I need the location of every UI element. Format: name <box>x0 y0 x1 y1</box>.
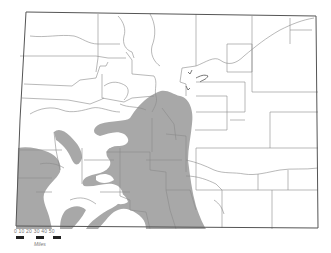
reservoir-markers <box>186 70 208 90</box>
scale-segment <box>16 236 24 239</box>
scale-segment <box>36 236 44 239</box>
scale-units-label: Miles <box>34 241 46 247</box>
scale-bar: 0 10 20 30 40 50 Miles <box>14 228 74 250</box>
scale-segment <box>53 236 61 239</box>
scale-segments <box>16 236 76 240</box>
scale-tick-labels: 0 10 20 30 40 50 <box>14 228 55 234</box>
colorado-range-map <box>0 0 331 253</box>
